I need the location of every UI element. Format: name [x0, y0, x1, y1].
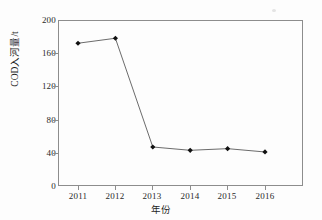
x-tick-label-2015: 2015 — [218, 191, 237, 201]
x-tick-mark-2015 — [227, 186, 228, 190]
x-tick-label-2016: 2016 — [256, 191, 275, 201]
x-tick-label-2014: 2014 — [181, 191, 200, 201]
x-tick-mark-2013 — [152, 186, 153, 190]
x-axis-title: 年份 — [0, 202, 322, 216]
y-tick-mark-120 — [53, 86, 58, 87]
x-tick-mark-2014 — [190, 186, 191, 190]
x-tick-label-2011: 2011 — [69, 191, 87, 201]
y-tick-label-40: 40 — [0, 148, 56, 158]
plot-area — [58, 20, 303, 186]
y-tick-mark-80 — [53, 120, 58, 121]
y-tick-label-0: 0 — [0, 181, 56, 191]
x-tick-label-2012: 2012 — [106, 191, 125, 201]
y-tick-mark-40 — [53, 153, 58, 154]
y-tick-mark-160 — [53, 53, 58, 54]
x-tick-mark-2016 — [265, 186, 266, 190]
x-tick-mark-2011 — [78, 186, 79, 190]
x-tick-mark-2012 — [115, 186, 116, 190]
x-tick-label-2013: 2013 — [143, 191, 162, 201]
chart-figure: 200 160 120 80 40 0 2011 2012 2013 2014 … — [0, 0, 322, 220]
scan-speck-icon — [272, 9, 276, 12]
y-axis-title: COD入河量/t — [7, 0, 21, 119]
